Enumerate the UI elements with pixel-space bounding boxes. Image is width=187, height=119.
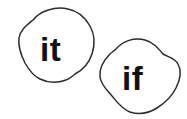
blob-illustration: it if xyxy=(0,0,187,119)
blob-word-if: if xyxy=(122,60,144,97)
blob-group-if[interactable]: if xyxy=(100,39,180,113)
blob-group-it[interactable]: it xyxy=(19,8,94,82)
worksheet-canvas: it if xyxy=(0,0,187,119)
blob-word-it: it xyxy=(40,31,61,68)
